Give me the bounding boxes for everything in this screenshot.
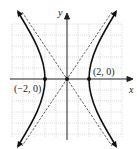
x-axis-label: x xyxy=(129,85,133,95)
vertex-left-label: (−2, 0) xyxy=(13,84,42,94)
hyperbola-plot xyxy=(0,0,137,149)
vertex-right-label: (2, 0) xyxy=(92,67,116,77)
y-axis-label: y xyxy=(58,8,62,18)
